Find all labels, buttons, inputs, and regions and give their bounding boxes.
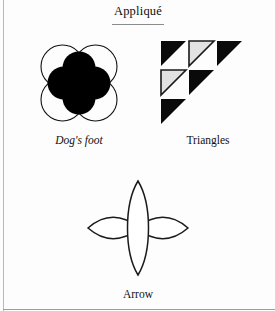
triangles-caption: Triangles bbox=[152, 134, 264, 146]
triangle-r3c1-solid bbox=[161, 99, 186, 124]
arrow-illustration bbox=[78, 178, 198, 278]
page-left-edge-line bbox=[3, 0, 4, 311]
appliqué-page: Appliqué Dog's foot bbox=[0, 0, 276, 311]
figure-triangles: Triangles bbox=[152, 40, 264, 146]
page-bottom-edge-line bbox=[3, 309, 275, 310]
page-title: Appliqué bbox=[0, 4, 276, 19]
figure-dogs-foot: Dog's foot bbox=[18, 40, 140, 146]
arrow-caption: Arrow bbox=[78, 288, 198, 300]
triangle-r1c2-light bbox=[189, 41, 214, 66]
title-underline-rule bbox=[112, 24, 164, 25]
triangle-r2c2-solid bbox=[189, 70, 214, 95]
triangle-r1c1-solid bbox=[161, 41, 186, 66]
page-right-edge-line bbox=[275, 0, 276, 311]
page-header: Appliqué bbox=[0, 4, 276, 25]
triangle-r1c3-solid bbox=[217, 41, 242, 66]
triangles-illustration bbox=[152, 40, 264, 128]
dogs-foot-caption: Dog's foot bbox=[18, 134, 140, 146]
dogs-foot-illustration bbox=[18, 40, 140, 128]
figure-arrow: Arrow bbox=[78, 178, 198, 300]
triangle-r2c1-light bbox=[161, 70, 186, 95]
arrow-petal-vertical bbox=[128, 181, 149, 275]
dogs-foot-solid-clover bbox=[48, 52, 111, 115]
